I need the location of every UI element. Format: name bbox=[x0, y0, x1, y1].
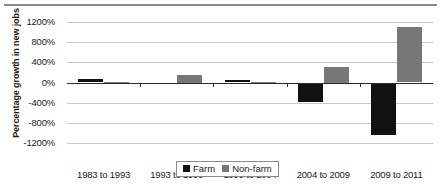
x-axis-tick-label: 2004 to 2009 bbox=[287, 169, 360, 180]
x-axis-tick-mark bbox=[140, 83, 141, 87]
y-axis-tick-label: 800% bbox=[0, 36, 55, 47]
x-axis-tick-mark bbox=[360, 83, 361, 87]
legend-swatch-nonfarm-icon bbox=[222, 165, 229, 172]
page-top-rule bbox=[4, 4, 437, 6]
bar-nonfarm bbox=[324, 67, 349, 82]
y-axis-tick-label: 400% bbox=[0, 56, 55, 67]
bar-farm bbox=[298, 83, 323, 102]
gridline bbox=[67, 22, 433, 23]
y-axis-tick-label: -800% bbox=[0, 117, 55, 128]
x-axis-tick-mark bbox=[213, 83, 214, 87]
y-axis-tick-label: -1200% bbox=[0, 137, 55, 148]
bar-farm bbox=[371, 83, 396, 136]
zero-axis-line bbox=[67, 83, 433, 85]
y-axis-tick-label: 0% bbox=[0, 77, 55, 88]
legend-swatch-farm-icon bbox=[183, 165, 190, 172]
gridline bbox=[67, 143, 433, 144]
gridline bbox=[67, 62, 433, 63]
legend-label-nonfarm: Non-farm bbox=[232, 163, 272, 174]
y-axis-tick-label: -400% bbox=[0, 97, 55, 108]
legend-entry-nonfarm: Non-farm bbox=[222, 163, 272, 174]
legend-label-farm: Farm bbox=[193, 163, 215, 174]
x-axis-tick-label: 1983 to 1993 bbox=[67, 169, 140, 180]
chart-legend: Farm Non-farm bbox=[176, 161, 279, 177]
bar-nonfarm bbox=[177, 75, 202, 83]
gridline bbox=[67, 42, 433, 43]
legend-entry-farm: Farm bbox=[183, 163, 215, 174]
bar-nonfarm bbox=[397, 27, 422, 82]
plot-area: 1200%800%400%0%-400%-800%-1200%1983 to 1… bbox=[67, 22, 433, 143]
x-axis-tick-mark bbox=[287, 83, 288, 87]
x-axis-tick-label: 2009 to 2011 bbox=[360, 169, 433, 180]
y-axis-tick-label: 1200% bbox=[0, 16, 55, 27]
chart-figure: Percentage growth in new jobs 1200%800%4… bbox=[0, 0, 441, 184]
